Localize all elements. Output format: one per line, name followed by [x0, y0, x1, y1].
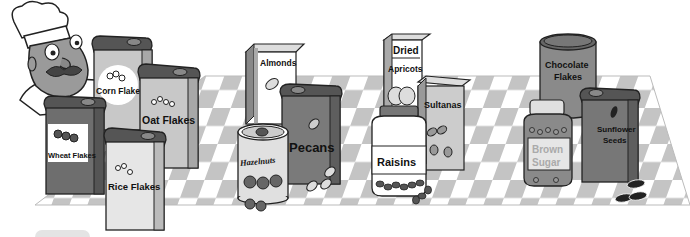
seeds-label: Seeds	[603, 136, 627, 145]
sugar-label: Sugar	[532, 157, 560, 168]
rice-flakes-label: Rice Flakes	[108, 181, 160, 192]
dried-label: Dried	[393, 45, 419, 56]
almonds-label: Almonds	[260, 58, 297, 68]
wheat-flakes-box: Wheat Flakes	[44, 96, 106, 194]
pecans-tin: Pecans	[280, 84, 342, 193]
pecans-label: Pecans	[289, 140, 335, 155]
sunflower-label: Sunflower	[597, 125, 636, 134]
rice-flakes-box: Rice Flakes	[104, 128, 166, 230]
chocolate-label: Chocolate	[545, 60, 589, 70]
brown-label: Brown	[532, 144, 563, 155]
decorative-blob	[35, 230, 90, 237]
oat-flakes-label: Oat Flakes	[142, 114, 195, 126]
flakes-label: Flakes	[554, 72, 582, 82]
raisins-label: Raisins	[377, 156, 416, 168]
hazelnuts-can: Hazelnuts	[238, 124, 288, 211]
apricot-icons	[388, 87, 415, 105]
sultanas-label: Sultanas	[424, 100, 462, 110]
raisins-jar: Raisins	[372, 106, 432, 204]
corn-flakes-label: Corn Flakes	[96, 86, 145, 96]
illustration-scene: Corn Flakes Oat Flakes Wheat Flakes Rice…	[0, 0, 690, 237]
wheat-flakes-label: Wheat Flakes	[48, 151, 96, 160]
apricots-label: Apricots	[388, 64, 423, 74]
